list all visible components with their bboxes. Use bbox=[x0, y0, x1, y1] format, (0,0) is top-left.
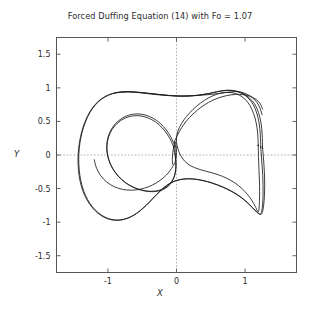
y-tick-label: 0.5 bbox=[38, 117, 51, 126]
trajectory-curve bbox=[78, 90, 265, 220]
y-tick-label: 0 bbox=[45, 151, 50, 160]
phase-portrait-plot: -1011.510.50-0.5-1-1.5 bbox=[0, 0, 320, 320]
y-tick-label: -1.5 bbox=[35, 252, 51, 261]
axis-tick-labels: -1011.510.50-0.5-1-1.5 bbox=[35, 50, 248, 285]
x-tick-label: 0 bbox=[174, 277, 179, 286]
trajectory-curve bbox=[107, 114, 176, 191]
y-tick-label: -1 bbox=[43, 218, 51, 227]
trajectory-curve bbox=[176, 92, 259, 212]
trajectory-curve bbox=[79, 90, 263, 220]
trajectory-curves bbox=[78, 90, 265, 220]
y-tick-label: -0.5 bbox=[35, 185, 51, 194]
trajectory-curve bbox=[107, 116, 176, 192]
x-tick-label: 1 bbox=[243, 277, 248, 286]
chart-figure: Forced Duffing Equation (14) with Fo = 1… bbox=[0, 0, 320, 320]
x-tick-label: -1 bbox=[104, 277, 112, 286]
trajectory-curve bbox=[94, 160, 173, 190]
y-tick-label: 1.5 bbox=[38, 50, 51, 59]
trajectory-curve bbox=[174, 94, 262, 141]
y-tick-label: 1 bbox=[45, 84, 50, 93]
